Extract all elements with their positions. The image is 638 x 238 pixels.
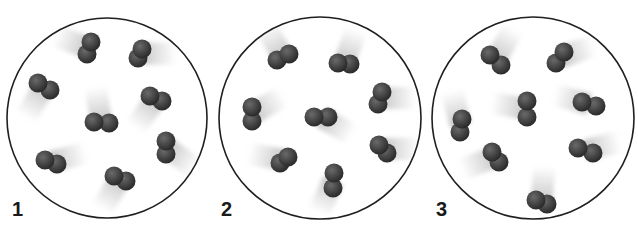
container-panel-1: [7, 18, 207, 218]
atom: [243, 98, 262, 117]
container-panel-3: [432, 17, 634, 219]
atom: [329, 54, 348, 73]
atom: [555, 43, 574, 62]
atom: [82, 33, 101, 52]
atom: [280, 45, 299, 64]
atom: [141, 87, 160, 106]
diatomic-molecule: [157, 132, 176, 164]
diagram-canvas: [0, 0, 638, 238]
atom: [453, 110, 472, 129]
atom: [105, 167, 124, 186]
panel-label-2: 2: [221, 199, 232, 219]
atom: [279, 148, 298, 167]
molecule-diagram: 123: [0, 0, 638, 238]
atom: [527, 191, 546, 210]
atom: [29, 74, 48, 93]
atom: [373, 83, 392, 102]
atom: [85, 113, 104, 132]
panel-label-3: 3: [436, 199, 447, 219]
atom: [370, 136, 389, 155]
atom: [36, 151, 55, 170]
container-panel-2: [219, 17, 421, 219]
atom: [518, 92, 537, 111]
diatomic-molecule: [547, 43, 574, 73]
atom: [573, 93, 592, 112]
panel-label-1: 1: [12, 199, 23, 219]
atom: [157, 132, 176, 151]
atom: [569, 139, 588, 158]
atom: [325, 164, 344, 183]
atom: [305, 108, 324, 127]
atom: [481, 46, 500, 65]
atom: [133, 40, 152, 59]
diatomic-molecule: [329, 54, 360, 74]
atom: [483, 143, 502, 162]
